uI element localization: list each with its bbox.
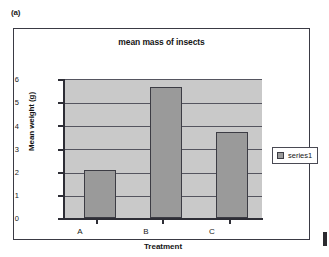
- x-axis-title: Treatment: [63, 242, 263, 251]
- chart-frame: mean mass of insects 6 5 4 3 2 1 0 A B C…: [13, 28, 310, 240]
- legend-label-series1: series1: [288, 151, 312, 160]
- y-tick-label-4: 4: [0, 122, 19, 131]
- chart-title: mean mass of insects: [14, 37, 309, 47]
- y-tick-label-1: 1: [0, 191, 19, 200]
- y-tick-label-3: 3: [0, 145, 19, 154]
- bar-A[interactable]: [84, 170, 116, 218]
- y-tick-label-5: 5: [0, 98, 19, 107]
- y-axis-title: Mean weight (g): [27, 67, 36, 177]
- x-tick-label-b: B: [126, 227, 166, 236]
- x-tick-mark-2: [162, 219, 164, 224]
- x-tick-mark-1: [96, 219, 98, 224]
- figure-label: (a): [11, 8, 20, 17]
- y-tick-label-2: 2: [0, 168, 19, 177]
- plot-area: [63, 79, 262, 218]
- y-axis-line: [63, 79, 65, 219]
- scan-edge-artifact: [323, 232, 327, 246]
- legend-swatch-icon: [277, 152, 284, 159]
- x-tick-label-a: A: [60, 227, 100, 236]
- bar-C[interactable]: [216, 132, 248, 218]
- x-tick-label-c: C: [192, 227, 232, 236]
- bar-B[interactable]: [150, 87, 182, 218]
- x-tick-mark-3: [229, 219, 231, 224]
- chart-legend[interactable]: series1: [272, 147, 318, 164]
- y-tick-label-0: 0: [0, 214, 19, 223]
- y-tick-label-6: 6: [0, 75, 19, 84]
